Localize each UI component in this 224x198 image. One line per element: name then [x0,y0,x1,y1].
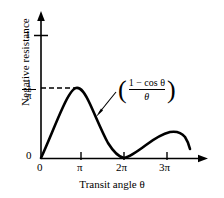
open-paren: ( [118,81,127,99]
x-tick-label-2pi: 2π [116,162,127,173]
figure-container: Negative resistance Transit angle θ 1 1 … [0,0,224,198]
formula-fraction-bar [129,89,165,90]
x-axis-label: Transit angle θ [0,178,224,190]
y-tick-label-zero: 0 [26,150,32,161]
x-tick-label-pi: π [77,162,83,173]
formula-denominator: θ [129,91,165,102]
fraction-denominator: π [21,91,37,100]
curve-formula-annotation: ( 1 − cos θ θ ) [118,77,176,102]
x-tick-label-0: 0 [37,162,43,173]
annotation-arrow [96,92,116,117]
y-tick-label-one: 1 [25,29,31,40]
fraction-numerator: 1 [21,79,37,88]
close-paren: ) [167,81,176,99]
y-tick-label-one-over-pi: 1 π [21,79,37,100]
x-tick-label-3pi: 3π [159,162,170,173]
formula-fraction: 1 − cos θ θ [127,77,167,102]
y-axis [37,11,45,159]
formula-numerator: 1 − cos θ [129,77,165,88]
